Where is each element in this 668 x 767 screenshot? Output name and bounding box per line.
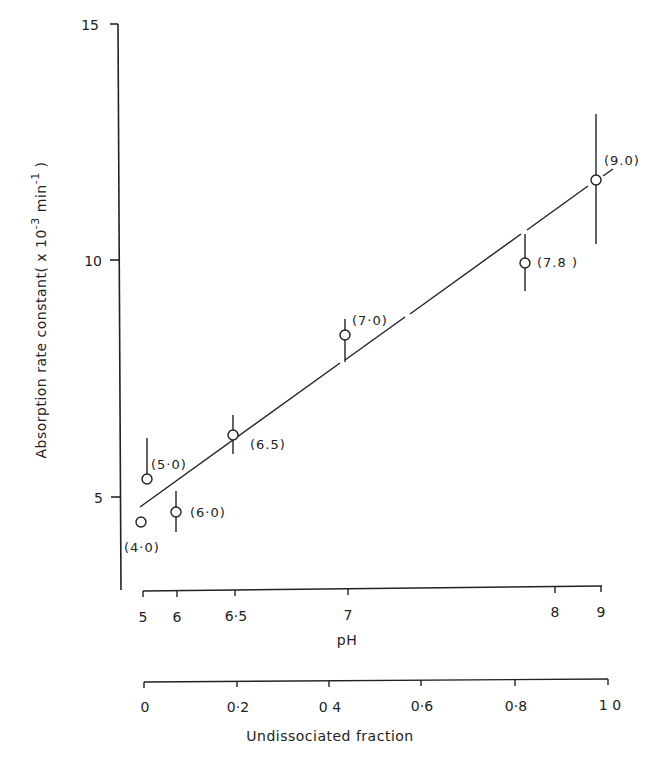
- fraction-tick-0-2: 0·2: [227, 699, 249, 715]
- chart: 15 10 5 Absorption rate constant( x 10-3…: [0, 0, 668, 767]
- y-tick-label-5: 5: [94, 490, 103, 506]
- ph-tick-6-5: 6·5: [225, 608, 247, 624]
- fraction-tick-0-4: 0 4: [319, 699, 341, 715]
- ph-tick-6: 6: [173, 609, 182, 625]
- point-ph-7-0: [340, 319, 350, 362]
- svg-text:Absorption rate constant( x 10: Absorption rate constant( x 10-3 min-1 ): [29, 161, 49, 458]
- fraction-tick-0: 0: [141, 699, 150, 715]
- fraction-tick-1-0: 1 0: [599, 697, 621, 713]
- point-label-4-0: (4·0): [124, 540, 160, 555]
- ph-tick-5: 5: [139, 609, 148, 625]
- y-tick-label-15: 15: [81, 17, 99, 33]
- y-axis-title-main: Absorption rate constant: [33, 273, 49, 459]
- point-label-9-0: (9.0): [604, 153, 640, 168]
- point-ph-4-0: [136, 517, 146, 527]
- ph-tick-9: 9: [597, 604, 606, 620]
- point-labels: (4·0) (5·0) (6·0) (6.5) (7·0) (7.8 ) (9.…: [124, 153, 640, 555]
- x-axis-fraction: 0 0·2 0 4 0·6 0·8 1 0 Undissociated frac…: [141, 679, 622, 744]
- y-axis-title: Absorption rate constant( x 10-3 min-1 ): [29, 161, 49, 458]
- fraction-tick-0-8: 0·8: [505, 698, 527, 714]
- fraction-tick-0-6: 0·6: [411, 698, 433, 714]
- fraction-axis-title: Undissociated fraction: [246, 728, 413, 744]
- point-label-5-0: (5·0): [151, 457, 187, 472]
- ph-tick-7: 7: [344, 607, 353, 623]
- point-ph-6-0: [171, 491, 181, 532]
- fit-line: [140, 169, 613, 507]
- ph-axis-title: pH: [337, 632, 357, 648]
- point-ph-9-0: [591, 114, 601, 244]
- point-label-7-8: (7.8 ): [537, 255, 578, 270]
- y-tick-label-10: 10: [84, 253, 102, 269]
- point-label-6-5: (6.5): [250, 437, 286, 452]
- point-label-7-0: (7·0): [352, 313, 388, 328]
- point-ph-6-5: [228, 415, 238, 454]
- y-axis: 15 10 5: [81, 17, 121, 590]
- point-ph-7-8: [520, 234, 530, 291]
- x-axis-ph: 5 6 6·5 7 8 9 pH: [139, 586, 606, 648]
- point-label-6-0: (6·0): [190, 505, 226, 520]
- ph-tick-8: 8: [551, 604, 560, 620]
